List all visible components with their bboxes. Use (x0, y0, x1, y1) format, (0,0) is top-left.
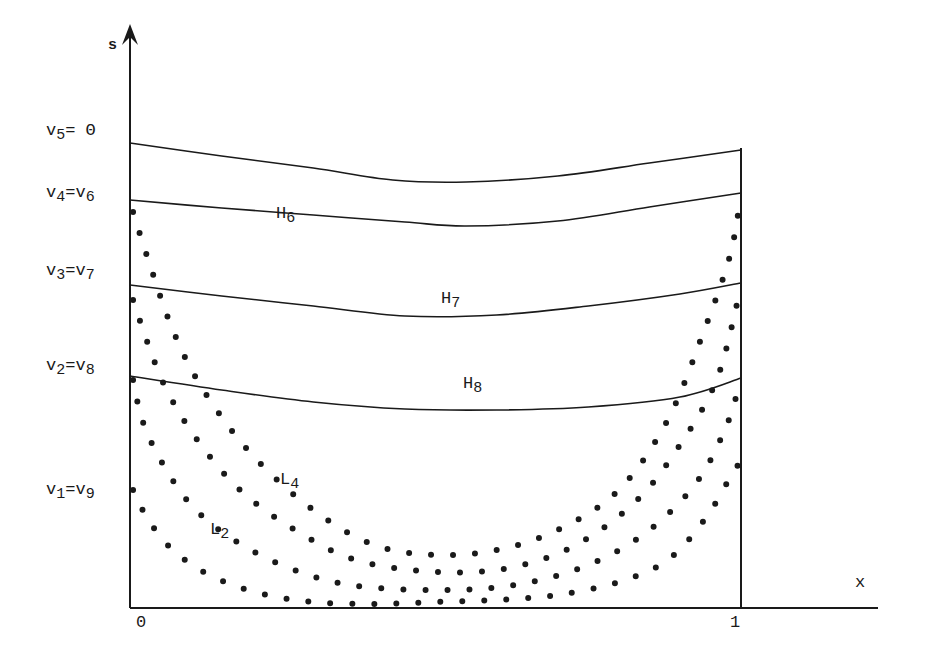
y-axis-label: s (108, 38, 117, 53)
curve-label-h7: H7 (441, 290, 460, 307)
level-label-3: v3=v7 (46, 262, 95, 279)
curve-h6 (130, 193, 741, 226)
plot-area (122, 24, 878, 608)
dotted-curve-1 (133, 212, 738, 555)
x-axis-label: x (855, 574, 865, 591)
curve-label-h8: H8 (463, 375, 482, 392)
level-label-4: v4=v6 (46, 184, 95, 201)
level-label-2: v2=v8 (46, 357, 95, 374)
level-label-1: v1=v9 (46, 481, 95, 498)
x-tick-0: 0 (136, 614, 146, 631)
curve-h7 (130, 283, 741, 317)
curve-h8 (130, 376, 741, 410)
curve-label-h6: H6 (276, 205, 295, 222)
x-tick-1: 1 (730, 614, 740, 631)
curve-label-l2: L2 (210, 521, 229, 538)
level-label-5: v5= Θ (46, 122, 96, 139)
curve-series0 (130, 143, 741, 182)
diagram-canvas (0, 0, 931, 654)
curve-label-l4: L4 (280, 471, 299, 488)
dotted-curve-3 (133, 380, 740, 590)
